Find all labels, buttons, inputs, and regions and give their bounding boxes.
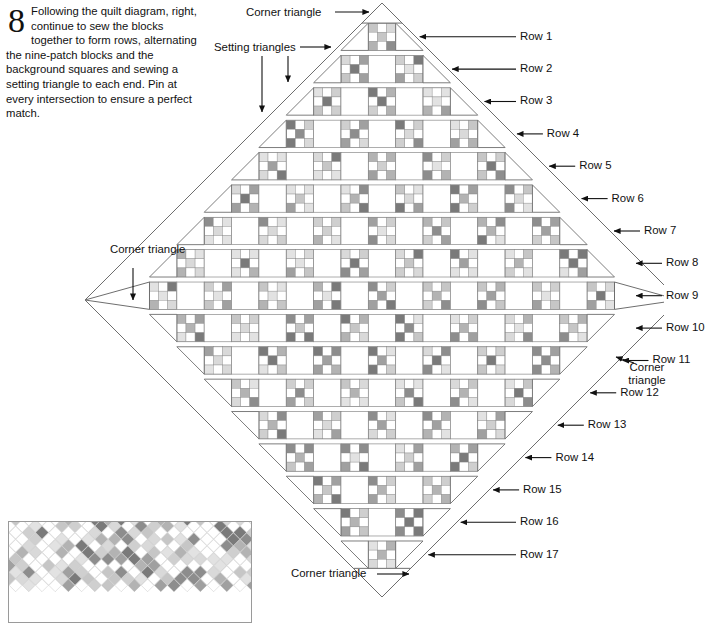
row-label: Row 6: [612, 192, 644, 205]
row-label: Row 4: [547, 127, 579, 140]
quilt-row: [204, 217, 560, 244]
quilt-row: [232, 379, 533, 406]
row-label: Row 16: [520, 515, 559, 528]
row-label: Row 10: [666, 321, 705, 334]
quilt-row: [204, 347, 560, 374]
label-corner-triangle-bottom: Corner triangle: [291, 567, 366, 580]
quilt-row: [314, 88, 451, 115]
row-label: Row 14: [555, 451, 594, 464]
label-setting-triangles: Setting triangles: [214, 41, 296, 54]
quilt-row: [314, 476, 451, 503]
row-label: Row 11: [653, 353, 691, 366]
quilt-row: [341, 509, 423, 536]
quilt-row: [150, 282, 615, 309]
row-label: Row 17: [520, 548, 559, 561]
finished-quilt-thumbnail: [8, 521, 252, 623]
row-label: Row 8: [666, 256, 698, 269]
quilt-row: [259, 153, 505, 180]
quilt-row: [259, 412, 505, 439]
row-label: Row 9: [666, 289, 698, 302]
row-label: Row 5: [579, 159, 611, 172]
row-label: Row 12: [620, 386, 659, 399]
row-label: Row 7: [644, 224, 676, 237]
quilt-row: [286, 120, 477, 147]
label-corner-triangle-top: Corner triangle: [246, 6, 321, 19]
corner-triangle-top: [362, 3, 402, 23]
label-corner-triangle-left: Corner triangle: [110, 243, 172, 256]
quilt-row: [286, 444, 477, 471]
quilt-row: [177, 250, 587, 277]
quilt-row: [232, 185, 533, 212]
thumbnail-svg: [9, 522, 251, 622]
row-label: Row 1: [520, 30, 552, 43]
quilt-row: [177, 314, 587, 341]
quilt-row: [368, 23, 395, 50]
quilt-row: [368, 541, 395, 568]
row-label: Row 15: [523, 483, 562, 496]
corner-triangle-left: [85, 282, 149, 309]
quilt-body: [85, 3, 664, 597]
row-label: Row 13: [588, 418, 627, 431]
quilt-row: [341, 55, 423, 82]
row-label: Row 2: [520, 62, 552, 75]
row-label: Row 3: [520, 94, 552, 107]
